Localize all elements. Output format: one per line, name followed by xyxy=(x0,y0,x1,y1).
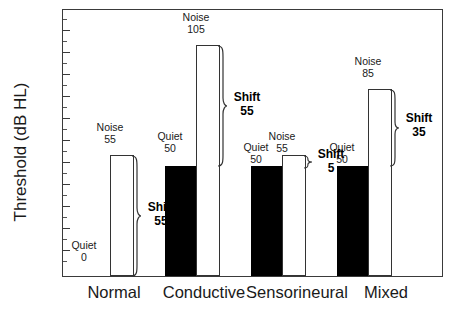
y-tick-20 xyxy=(63,228,70,229)
shift-word-mixed: Shift xyxy=(406,111,433,125)
y-minor-tick-35 xyxy=(63,195,67,196)
shift-word-conductive: Shift xyxy=(234,90,261,104)
label-conductive-noise-name: Noise xyxy=(183,11,210,23)
shift-word-normal: Shift xyxy=(148,200,175,214)
label-normal-quiet: Quiet 0 xyxy=(62,240,106,263)
y-minor-tick-115 xyxy=(63,19,67,20)
x-category-mixed: Mixed xyxy=(348,283,424,302)
y-minor-tick-25 xyxy=(63,217,67,218)
label-conductive-quiet-name: Quiet xyxy=(157,130,182,142)
shift-value-conductive: 55 xyxy=(227,104,267,118)
label-normal-quiet-name: Quiet xyxy=(71,239,96,251)
y-tick-40 xyxy=(63,184,70,185)
bar-sensorineural-quiet xyxy=(251,166,282,276)
label-normal-quiet-value: 0 xyxy=(81,251,87,263)
y-tick-110 xyxy=(63,30,70,31)
bar-mixed-quiet xyxy=(337,166,368,276)
shift-value-mixed: 35 xyxy=(399,125,439,139)
label-sensorineural-noise: Noise 55 xyxy=(259,131,305,154)
label-sensorineural-noise-value: 55 xyxy=(276,142,288,154)
y-minor-tick-55 xyxy=(63,151,67,152)
shift-label-mixed: Shift 35 xyxy=(399,111,439,139)
y-tick-100 xyxy=(63,52,70,53)
y-minor-tick-65 xyxy=(63,129,67,130)
label-conductive-quiet-value: 50 xyxy=(164,142,176,154)
y-minor-tick-105 xyxy=(63,41,67,42)
y-tick-30 xyxy=(63,206,70,207)
shift-value-sensorineural: 5 xyxy=(311,161,351,175)
bar-chart-figure: Threshold (dB HL) 110 100 90 80 70 60 50… xyxy=(0,0,455,313)
y-minor-tick-75 xyxy=(63,107,67,108)
label-mixed-noise: Noise 85 xyxy=(345,56,391,79)
label-mixed-noise-name: Noise xyxy=(355,55,382,67)
shift-label-sensorineural: Shift 5 xyxy=(311,147,351,175)
y-tick-90 xyxy=(63,74,70,75)
y-minor-tick-85 xyxy=(63,85,67,86)
label-normal-noise-value: 55 xyxy=(104,133,116,145)
label-normal-noise-name: Noise xyxy=(97,121,124,133)
y-tick-60 xyxy=(63,140,70,141)
y-minor-tick-45 xyxy=(63,173,67,174)
shift-value-normal: 55 xyxy=(141,214,181,228)
label-sensorineural-noise-name: Noise xyxy=(269,130,296,142)
x-category-normal: Normal xyxy=(69,283,159,302)
shift-label-conductive: Shift 55 xyxy=(227,90,267,118)
shift-word-sensorineural: Shift xyxy=(318,147,345,161)
x-category-sensorineural: Sensorineural xyxy=(237,283,357,302)
label-mixed-noise-value: 85 xyxy=(362,67,374,79)
label-conductive-quiet: Quiet 50 xyxy=(148,131,192,154)
label-conductive-noise: Noise 105 xyxy=(173,12,219,35)
y-tick-80 xyxy=(63,96,70,97)
label-sensorineural-quiet-value: 50 xyxy=(250,153,262,165)
label-conductive-noise-value: 105 xyxy=(187,23,205,35)
label-normal-noise: Noise 55 xyxy=(87,122,133,145)
y-tick-50 xyxy=(63,162,70,163)
shift-label-normal: Shift 55 xyxy=(141,200,181,228)
y-minor-tick-95 xyxy=(63,63,67,64)
bar-sensorineural-noise xyxy=(282,155,306,276)
y-axis-title: Threshold (dB HL) xyxy=(11,47,31,257)
y-tick-70 xyxy=(63,118,70,119)
